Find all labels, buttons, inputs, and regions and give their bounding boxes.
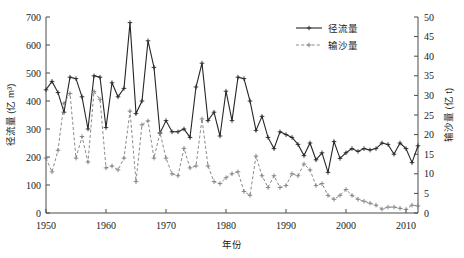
datapoint-sediment [146, 119, 151, 124]
datapoint-runoff [140, 99, 145, 104]
datapoint-runoff [224, 89, 229, 94]
datapoint-runoff [86, 127, 91, 132]
datapoint-sediment [320, 181, 325, 186]
datapoint-sediment [218, 181, 223, 186]
datapoint-sediment [176, 173, 181, 178]
y-ticklabel-right: 5 [424, 188, 429, 199]
datapoint-runoff [326, 170, 331, 175]
datapoint-sediment [194, 164, 199, 169]
datapoint-sediment [368, 201, 373, 206]
datapoint-runoff [332, 139, 337, 144]
datapoint-sediment [134, 179, 139, 184]
datapoint-runoff [260, 114, 265, 119]
runoff-sediment-chart: 0100200300400500600700051015202530354045… [0, 0, 464, 258]
y-ticklabel-left: 600 [26, 40, 41, 51]
y-ticklabel-right: 35 [424, 70, 434, 81]
datapoint-sediment [260, 173, 265, 178]
datapoint-sediment [86, 160, 91, 165]
datapoint-runoff [230, 118, 235, 123]
datapoint-sediment [128, 109, 133, 114]
x-ticklabel: 1990 [276, 220, 296, 231]
datapoint-runoff [98, 75, 103, 80]
datapoint-sediment [290, 172, 295, 177]
datapoint-runoff [416, 144, 421, 149]
series-line-runoff [46, 23, 418, 173]
datapoint-runoff [104, 125, 109, 130]
x-ticklabel: 2010 [396, 220, 416, 231]
y-ticklabel-left: 500 [26, 68, 41, 79]
datapoint-sediment [326, 193, 331, 198]
datapoint-runoff [110, 81, 115, 86]
datapoint-sediment [392, 205, 397, 210]
y-ticklabel-right: 10 [424, 168, 434, 179]
datapoint-sediment [242, 189, 247, 194]
y-ticklabel-left: 0 [36, 208, 41, 219]
datapoint-runoff [302, 153, 307, 158]
datapoint-runoff [134, 111, 139, 116]
datapoint-runoff [194, 85, 199, 90]
datapoint-sediment [50, 170, 55, 175]
y-axis-title-left: 径流量 (亿 m³) [5, 84, 16, 147]
datapoint-runoff [176, 130, 181, 135]
datapoint-runoff [218, 134, 223, 139]
x-ticklabel: 1960 [96, 220, 116, 231]
datapoint-sediment [278, 185, 283, 190]
datapoint-sediment [74, 156, 79, 161]
datapoint-runoff [284, 132, 289, 137]
datapoint-sediment [254, 154, 259, 159]
datapoint-runoff [410, 160, 415, 165]
datapoint-sediment [188, 166, 193, 171]
datapoint-sediment [266, 185, 271, 190]
datapoint-sediment [56, 148, 61, 153]
datapoint-runoff [68, 75, 73, 80]
datapoint-runoff [56, 90, 61, 95]
legend-label-sediment: 输沙量 [328, 40, 358, 51]
datapoint-sediment [362, 199, 367, 204]
datapoint-sediment [398, 206, 403, 211]
series-line-sediment [46, 91, 418, 209]
y-ticklabel-left: 400 [26, 96, 41, 107]
datapoint-runoff [248, 99, 253, 104]
datapoint-runoff [242, 76, 247, 81]
y-ticklabel-right: 25 [424, 110, 434, 121]
datapoint-runoff [368, 148, 373, 153]
y-ticklabel-right: 50 [424, 12, 434, 23]
y-ticklabel-left: 100 [26, 180, 41, 191]
datapoint-runoff [278, 130, 283, 135]
datapoint-sediment [206, 164, 211, 169]
datapoint-runoff [236, 75, 241, 80]
datapoint-sediment [230, 172, 235, 177]
datapoint-runoff [146, 39, 151, 44]
datapoint-runoff [272, 146, 277, 151]
datapoint-runoff [254, 128, 259, 133]
x-ticklabel: 2000 [336, 220, 356, 231]
chart-canvas: 0100200300400500600700051015202530354045… [0, 0, 464, 258]
datapoint-sediment [212, 179, 217, 184]
datapoint-runoff [308, 141, 313, 146]
x-ticklabel: 1950 [36, 220, 56, 231]
y-ticklabel-right: 15 [424, 149, 434, 160]
x-ticklabel: 1970 [156, 220, 176, 231]
datapoint-sediment [104, 166, 109, 171]
legend-marker-runoff [307, 26, 312, 31]
datapoint-sediment [68, 91, 73, 96]
y-ticklabel-right: 20 [424, 129, 434, 140]
datapoint-sediment [386, 205, 391, 210]
x-ticklabel: 1980 [216, 220, 236, 231]
datapoint-runoff [170, 130, 175, 135]
datapoint-runoff [152, 65, 157, 70]
x-axis-title: 年份 [222, 239, 242, 250]
datapoint-runoff [74, 76, 79, 81]
datapoint-sediment [152, 156, 157, 161]
y-axis-title-right: 输沙量 (亿 t) [443, 88, 454, 142]
datapoint-sediment [416, 204, 421, 209]
legend-marker-sediment [307, 43, 312, 48]
datapoint-sediment [308, 168, 313, 173]
datapoint-sediment [374, 203, 379, 208]
datapoint-sediment [200, 117, 205, 122]
y-ticklabel-left: 200 [26, 152, 41, 163]
y-ticklabel-right: 40 [424, 51, 434, 62]
datapoint-runoff [362, 146, 367, 151]
datapoint-sediment [272, 173, 277, 178]
datapoint-sediment [182, 146, 187, 151]
